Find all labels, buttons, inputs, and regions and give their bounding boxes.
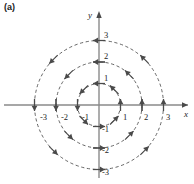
flow-arrow-head (93, 38, 98, 44)
x-ticklabel-3: 3 (166, 112, 170, 122)
figure-panel: (a) y x -3 -2 -1 1 2 3 (0, 0, 194, 184)
flow-arrow-head (75, 106, 81, 111)
flow-arrow-head (32, 106, 38, 111)
x-axis-label: x (183, 109, 188, 119)
y-ticklabel-neg2: -2 (102, 145, 109, 155)
y-ticklabel-1: 1 (104, 73, 108, 83)
x-ticklabel-1: 1 (123, 112, 127, 122)
x-axis-arrowhead (182, 102, 188, 107)
flow-arrow-head (118, 99, 124, 104)
phase-portrait-plot: y x -3 -2 -1 1 2 3 3 2 1 -1 -2 (0, 0, 194, 184)
y-ticklabel-3: 3 (104, 30, 108, 40)
flow-arrow-head (161, 99, 167, 104)
flow-arrow-head (93, 59, 98, 65)
y-ticklabel-2: 2 (104, 51, 108, 61)
axes-group (4, 11, 188, 178)
x-ticklabel-2: 2 (144, 112, 148, 122)
y-axis-arrowhead (96, 11, 101, 18)
flow-arrow-head (93, 81, 98, 87)
x-ticklabel-neg3: -3 (40, 112, 47, 122)
y-axis-label: y (87, 10, 92, 20)
flow-arrow-head (53, 106, 59, 111)
x-ticklabel-neg2: -2 (61, 112, 68, 122)
flow-arrow-head (139, 99, 145, 104)
